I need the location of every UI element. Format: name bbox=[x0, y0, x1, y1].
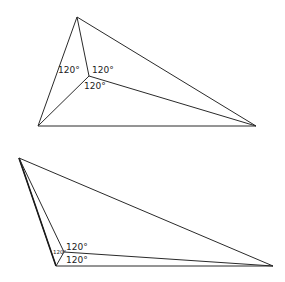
segment-2-a bbox=[19, 158, 64, 252]
triangle-2-left-side bbox=[19, 158, 56, 266]
figure-2: 120° 120° 120° bbox=[19, 158, 273, 266]
angle-label-2-small: 120° bbox=[53, 249, 66, 255]
angle-label-1-right: 120° bbox=[92, 65, 114, 75]
angle-label-2-lower: 120° bbox=[66, 255, 88, 265]
angle-label-2-upper: 120° bbox=[66, 242, 88, 252]
segment-2-c bbox=[64, 252, 273, 266]
angle-label-1-left: 120° bbox=[58, 65, 80, 75]
angle-label-1-bottom: 120° bbox=[84, 81, 106, 91]
diagram-canvas: 120° 120° 120° 120° 120° 120° bbox=[0, 0, 285, 282]
segment-1-b bbox=[38, 76, 89, 126]
figure-1: 120° 120° 120° bbox=[38, 17, 256, 126]
segment-1-c bbox=[89, 76, 256, 126]
